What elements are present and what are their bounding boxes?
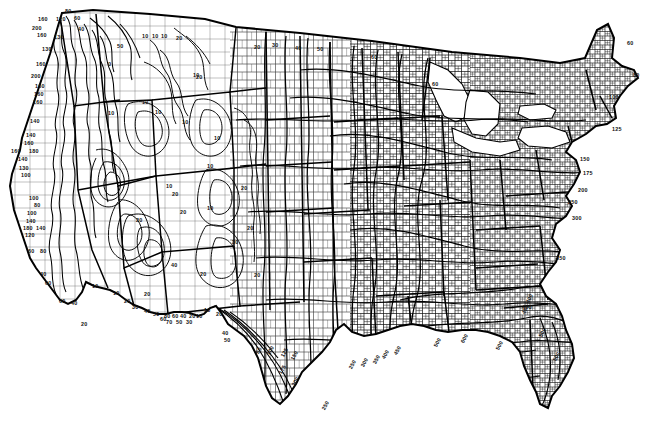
contour-label: 100 (29, 196, 39, 201)
contour-label: 30 (132, 305, 138, 310)
contour-label: 20 (136, 218, 142, 223)
map-figure: 8016012060200401601301301602001601601601… (0, 0, 649, 424)
contour-label: 30 (272, 43, 278, 48)
contour-label: 60 (432, 82, 438, 87)
contour-label: 60 (59, 299, 65, 304)
contour-label: 10 (166, 184, 172, 189)
contour-label: 160 (38, 17, 48, 22)
contour-label: 140 (30, 119, 40, 124)
contour-label: 130 (19, 166, 29, 171)
contour-label: 400 (522, 305, 532, 310)
contour-label: 20 (200, 272, 206, 277)
contour-label: 80 (633, 73, 639, 78)
contour-label: 200 (32, 26, 42, 31)
contour-label: 40 (171, 263, 177, 268)
contour-label: 10 (196, 314, 202, 319)
contour-label: 160 (37, 33, 47, 38)
contour-label: 40 (295, 46, 301, 51)
contour-label: 10 (92, 284, 98, 289)
contour-label: 10 (113, 291, 119, 296)
contour-label: 10 (155, 110, 161, 115)
contour-label: 80 (65, 9, 71, 14)
contour-label: 60 (371, 55, 377, 60)
contour-label: 100 (27, 211, 37, 216)
contour-label: 50 (224, 338, 230, 343)
contour-label: 20 (254, 273, 260, 278)
contour-label: 10 (152, 34, 158, 39)
contour-label: 60 (627, 41, 633, 46)
contour-label: 130 (42, 47, 52, 52)
contour-label: 10 (214, 136, 220, 141)
contour-label: 70 (166, 320, 172, 325)
contour-label: 120 (25, 233, 35, 238)
contour-label: 10 (182, 120, 188, 125)
contour-label: 40 (40, 272, 46, 277)
contour-label: 160 (36, 62, 46, 67)
contour-label: 10 (207, 206, 213, 211)
contour-label: 160 (11, 149, 21, 154)
contour-label: 20 (247, 226, 253, 231)
contour-label: 80 (40, 249, 46, 254)
contour-label: 20 (172, 192, 178, 197)
contour-label: 40 (144, 309, 150, 314)
contour-label: 350 (556, 256, 566, 261)
contour-label: 100 (21, 173, 31, 178)
contour-label: 50 (117, 44, 123, 49)
contour-label: 125 (612, 127, 622, 132)
contour-label: 20 (241, 186, 247, 191)
contour-label: 30 (232, 240, 238, 245)
contour-label: 160 (34, 92, 44, 97)
us-contour-map-svg (0, 0, 649, 424)
contour-label: 160 (35, 84, 45, 89)
contour-label: 300 (572, 216, 582, 221)
contour-label: 10 (108, 111, 114, 116)
contour-label: 120 (56, 17, 66, 22)
contour-label: 10 (161, 34, 167, 39)
contour-label: 140 (26, 133, 36, 138)
contour-label: 30 (186, 320, 192, 325)
contour-label: 60 (45, 281, 51, 286)
contour-label: 50 (317, 47, 323, 52)
contour-label: 10 (142, 34, 148, 39)
contour-label: 140 (36, 226, 46, 231)
contour-label: 175 (583, 171, 593, 176)
contour-label: 140 (18, 157, 28, 162)
contour-label: 10 (193, 73, 199, 78)
contour-label: 200 (578, 188, 588, 193)
contour-label: 20 (216, 312, 222, 317)
contour-label: 40 (222, 331, 228, 336)
contour-label: 10 (207, 164, 213, 169)
contour-label: 20 (180, 210, 186, 215)
contour-label: 150 (580, 157, 590, 162)
contour-label: 180 (23, 226, 33, 231)
contour-label: 160 (33, 100, 43, 105)
contour-label: 250 (568, 200, 578, 205)
contour-label: 160 (24, 141, 34, 146)
contour-label: 130 (54, 35, 64, 40)
contour-label: 200 (31, 74, 41, 79)
contour-label: 20 (144, 292, 150, 297)
contour-label: 100 (609, 95, 619, 100)
contour-label: 140 (26, 219, 36, 224)
contour-label: 60 (28, 249, 34, 254)
contour-label: 20 (81, 322, 87, 327)
contour-label: 10 (204, 308, 210, 313)
contour-label: 80 (34, 203, 40, 208)
contour-label: 40 (71, 301, 77, 306)
contour-label: 50 (176, 320, 182, 325)
contour-label: 10 (142, 100, 148, 105)
contour-label: 60 (74, 16, 80, 21)
contour-label: 20 (124, 299, 130, 304)
contour-label: 0 (108, 62, 111, 67)
contour-label: 180 (29, 149, 39, 154)
contour-label: 50 (153, 312, 159, 317)
contour-label: 20 (254, 45, 260, 50)
contour-label: 40 (78, 27, 84, 32)
contour-label: 20 (176, 36, 182, 41)
